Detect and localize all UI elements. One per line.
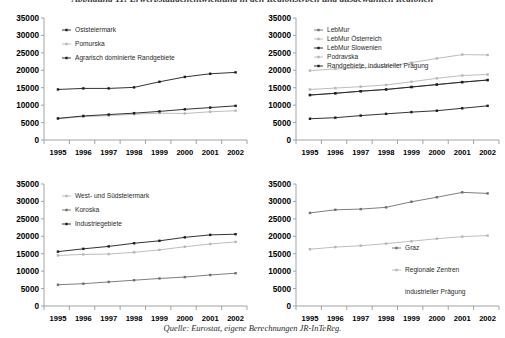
x-tick-label: 1996 (327, 148, 344, 157)
x-tick-label: 1999 (403, 148, 420, 157)
data-point (385, 88, 387, 90)
series-line (310, 192, 488, 213)
y-tick-label: 30000 (16, 31, 39, 40)
data-point (461, 235, 463, 237)
legend-marker (62, 43, 71, 45)
data-point (209, 234, 211, 236)
data-point (486, 73, 488, 75)
data-point (436, 196, 438, 198)
data-point (234, 241, 236, 243)
data-point (385, 113, 387, 115)
data-point (309, 118, 311, 120)
data-point (309, 88, 311, 90)
data-point (461, 53, 463, 55)
x-tick-label: 2000 (176, 314, 193, 323)
data-point (334, 92, 336, 94)
chart-panel-top-right: 3500030000250002000015000100005000019951… (252, 14, 505, 174)
y-tick-label: 5000 (21, 119, 40, 128)
data-point (158, 240, 160, 242)
x-tick-label: 2000 (428, 148, 445, 157)
y-tick-label: 35000 (268, 180, 291, 189)
data-point (234, 272, 236, 274)
data-point (234, 105, 236, 107)
y-tick-label: 5000 (273, 119, 292, 128)
legend-label: LebMur Österreich (327, 35, 382, 42)
y-tick-label: 5000 (21, 285, 40, 294)
data-point (108, 87, 110, 89)
y-tick-label: 5000 (273, 285, 292, 294)
x-tick-label: 1995 (50, 314, 68, 323)
y-tick-label: 15000 (16, 250, 39, 259)
y-tick-label: 25000 (16, 49, 39, 58)
data-point (158, 110, 160, 112)
data-point (334, 246, 336, 248)
data-point (486, 79, 488, 81)
data-point (334, 116, 336, 118)
data-point (108, 113, 110, 115)
legend-marker (314, 47, 323, 49)
chart-svg: 3500030000250002000015000100005000019951… (252, 180, 505, 338)
data-point (436, 238, 438, 240)
legend-marker (314, 38, 323, 40)
data-point (486, 234, 488, 236)
data-point (334, 87, 336, 89)
data-point (360, 208, 362, 210)
y-tick-label: 30000 (16, 197, 39, 206)
data-point (184, 246, 186, 248)
y-tick-label: 0 (286, 302, 291, 311)
chart-svg: 3500030000250002000015000100005000019951… (0, 14, 253, 174)
data-point (461, 107, 463, 109)
data-point (486, 54, 488, 56)
x-tick-label: 1997 (100, 314, 117, 323)
data-point (234, 233, 236, 235)
legend-label: Pomurska (75, 40, 105, 47)
data-point (158, 277, 160, 279)
y-tick-label: 35000 (16, 14, 39, 23)
x-tick-label: 1999 (403, 314, 420, 323)
data-point (461, 74, 463, 76)
data-point (158, 81, 160, 83)
data-point (486, 105, 488, 107)
y-tick-label: 15000 (268, 250, 291, 259)
x-tick-label: 1997 (352, 314, 369, 323)
y-tick-label: 35000 (16, 180, 39, 189)
legend-marker (314, 29, 323, 31)
y-tick-label: 20000 (16, 232, 39, 241)
x-tick-label: 1996 (327, 314, 344, 323)
data-point (360, 244, 362, 246)
data-point (184, 276, 186, 278)
data-point (57, 88, 59, 90)
series-line (58, 273, 236, 285)
legend-label: Podravska (327, 53, 358, 60)
chart-panel-bottom-right: 3500030000250002000015000100005000019951… (252, 180, 505, 338)
data-point (133, 86, 135, 88)
legend-marker (62, 223, 71, 225)
legend-marker (392, 247, 401, 249)
chart-svg: 3500030000250002000015000100005000019951… (0, 180, 253, 338)
data-point (234, 71, 236, 73)
x-tick-label: 2001 (454, 148, 472, 157)
data-point (57, 254, 59, 256)
x-tick-label: 1999 (151, 314, 168, 323)
data-point (410, 201, 412, 203)
x-tick-label: 2000 (428, 314, 445, 323)
legend-marker (62, 29, 71, 31)
data-point (184, 76, 186, 78)
data-point (436, 57, 438, 59)
x-tick-label: 1996 (75, 314, 92, 323)
y-tick-label: 10000 (268, 267, 291, 276)
x-tick-label: 1997 (352, 148, 369, 157)
legend-label: Industriegebiete (75, 220, 122, 228)
data-point (461, 81, 463, 83)
data-point (209, 111, 211, 113)
legend-label: Agrarisch dominierte Randgebiete (75, 54, 175, 62)
legend-label: West- und Südsteiermark (75, 192, 150, 199)
data-point (184, 236, 186, 238)
data-point (360, 90, 362, 92)
data-point (158, 249, 160, 251)
x-tick-label: 2001 (454, 314, 472, 323)
legend-marker (314, 56, 323, 58)
data-point (82, 282, 84, 284)
y-tick-label: 10000 (268, 101, 291, 110)
data-point (57, 117, 59, 119)
